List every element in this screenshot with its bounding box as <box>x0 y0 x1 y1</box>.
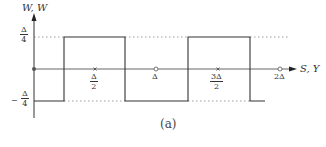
y-axis-label: W, W <box>22 3 47 13</box>
tick-circle-delta <box>154 67 158 71</box>
bottom-level-label: Δ 4 <box>21 90 29 108</box>
bottom-level-sign: − <box>11 97 18 105</box>
tick-label-two-delta: 2Δ <box>274 73 285 81</box>
origin-dot <box>32 67 36 71</box>
tick-circle-two-delta <box>278 67 282 71</box>
x-axis-label: S, Y <box>300 64 319 74</box>
x-axis-arrow-icon <box>289 67 297 72</box>
figure-caption: (a) <box>160 117 177 131</box>
y-axis-arrow-icon <box>32 13 37 21</box>
top-level-label: Δ 4 <box>20 26 28 44</box>
tick-label-half-delta: Δ 2 <box>90 73 98 91</box>
tick-label-delta: Δ <box>152 73 158 81</box>
tick-label-three-half-delta: 3Δ 2 <box>210 73 223 91</box>
